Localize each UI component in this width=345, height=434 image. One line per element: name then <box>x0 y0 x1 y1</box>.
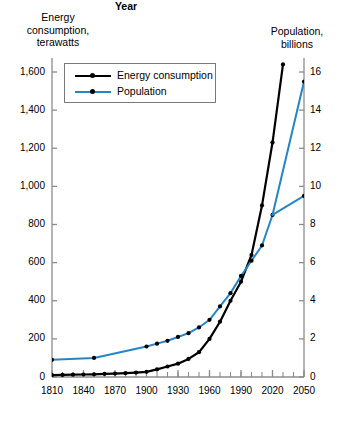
left-ytick-label-800: 800 <box>5 218 45 229</box>
data-point <box>197 325 201 329</box>
data-point <box>81 372 85 376</box>
right-ytick-label-6: 6 <box>310 256 340 267</box>
data-point <box>113 371 117 375</box>
data-point <box>165 339 169 343</box>
data-point <box>281 62 285 66</box>
left-ytick-label-600: 600 <box>5 256 45 267</box>
data-point <box>144 344 148 348</box>
xtick-label-2050: 2050 <box>284 385 324 396</box>
legend-entry-energy-consumption: Energy consumption <box>65 68 215 84</box>
legend-label-population: Population <box>117 85 167 97</box>
legend-label-energy: Energy consumption <box>117 69 213 81</box>
data-point <box>71 373 75 377</box>
right-ytick-label-0: 0 <box>310 371 340 382</box>
left-ytick-label-200: 200 <box>5 332 45 343</box>
data-point <box>302 79 306 83</box>
data-point <box>260 203 264 207</box>
legend-marker-icon-energy <box>90 73 95 78</box>
data-point <box>218 320 222 324</box>
data-point <box>249 259 253 263</box>
chart-legend: Energy consumption Population <box>64 63 216 103</box>
right-ytick-label-4: 4 <box>310 294 340 305</box>
left-ytick-label-1200: 1,200 <box>5 142 45 153</box>
chart-figure: Energy consumption, terawatts Population… <box>0 0 345 434</box>
legend-marker-icon-population <box>90 89 95 94</box>
data-point <box>249 253 253 257</box>
data-point <box>50 373 54 377</box>
data-point <box>102 372 106 376</box>
data-point <box>134 371 138 375</box>
data-point <box>186 331 190 335</box>
data-point <box>92 372 96 376</box>
left-ytick-label-0: 0 <box>5 371 45 382</box>
data-point <box>176 335 180 339</box>
data-point <box>228 291 232 295</box>
data-point <box>218 304 222 308</box>
data-point <box>176 362 180 366</box>
data-point <box>92 356 96 360</box>
data-point <box>155 367 159 371</box>
left-ytick-label-1400: 1,400 <box>5 104 45 115</box>
right-ytick-label-16: 16 <box>310 66 340 77</box>
data-point <box>50 358 54 362</box>
left-ytick-label-1000: 1,000 <box>5 180 45 191</box>
data-point <box>186 357 190 361</box>
legend-entry-population: Population <box>65 84 215 100</box>
data-point <box>207 318 211 322</box>
data-point <box>302 194 306 198</box>
right-ytick-label-8: 8 <box>310 218 340 229</box>
left-ytick-label-1600: 1,600 <box>5 66 45 77</box>
data-point <box>165 364 169 368</box>
data-point <box>270 140 274 144</box>
data-point <box>260 243 264 247</box>
right-ytick-label-10: 10 <box>310 180 340 191</box>
data-point <box>60 373 64 377</box>
series-line-1 <box>52 215 273 360</box>
data-point <box>155 342 159 346</box>
data-point <box>207 337 211 341</box>
right-ytick-label-12: 12 <box>310 142 340 153</box>
data-point <box>197 350 201 354</box>
left-ytick-label-400: 400 <box>5 294 45 305</box>
data-point <box>123 371 127 375</box>
right-ytick-label-14: 14 <box>310 104 340 115</box>
right-ytick-label-2: 2 <box>310 332 340 343</box>
data-point <box>144 370 148 374</box>
data-point <box>239 274 243 278</box>
series-line-0 <box>52 64 283 375</box>
data-point <box>228 299 232 303</box>
